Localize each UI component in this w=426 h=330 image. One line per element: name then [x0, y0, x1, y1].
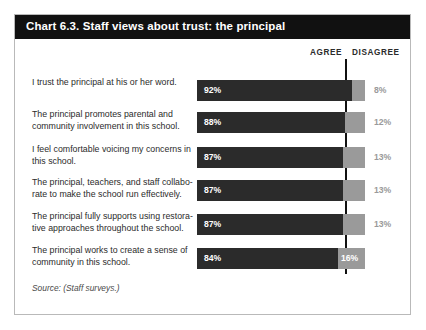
bar-value-agree: 92%: [204, 85, 221, 95]
source-note: Source: (Staff surveys.): [32, 283, 120, 293]
row-label-line: rate to make the school run effectively.: [32, 189, 194, 201]
bar-segment-disagree: [343, 214, 365, 235]
bar-value-disagree: 16%: [341, 253, 358, 263]
bar-track: 84%16%: [197, 248, 365, 269]
bar-value-agree: 87%: [204, 219, 221, 229]
column-header-disagree: DISAGREE: [352, 48, 400, 57]
row-label-line: The principal fully supports using resto…: [32, 211, 194, 223]
row-label: The principal works to create a sense of…: [32, 245, 194, 268]
bar-track: 87%13%: [197, 147, 365, 168]
chart-card: Chart 6.3. Staff views about trust: the …: [14, 14, 411, 315]
bar-track: 87%13%: [197, 214, 365, 235]
bar-track: 88%12%: [197, 112, 365, 133]
bar-value-disagree: 12%: [374, 117, 391, 127]
row-label-line: this school.: [32, 156, 194, 168]
chart-row: The principal promotes parental andcommu…: [15, 109, 410, 140]
row-label-line: I trust the principal at his or her word…: [32, 77, 194, 89]
bar-segment-disagree: [343, 180, 365, 201]
bar-segment-disagree: [352, 80, 365, 101]
chart-title-bar: Chart 6.3. Staff views about trust: the …: [15, 15, 410, 39]
row-label-line: tive approaches throughout the school.: [32, 223, 194, 235]
bar-value-disagree: 13%: [374, 185, 391, 195]
bar-value-agree: 88%: [204, 117, 221, 127]
bar-segment-agree: 92%: [197, 80, 352, 101]
row-label: I trust the principal at his or her word…: [32, 77, 194, 89]
row-label-line: I feel comfortable voicing my concerns i…: [32, 144, 194, 156]
row-label-line: community in this school.: [32, 257, 194, 269]
row-label: The principal promotes parental andcommu…: [32, 109, 194, 132]
page-title: Chart 6.3. Staff views about trust: the …: [26, 20, 285, 32]
chart-plot-area: I trust the principal at his or her word…: [15, 59, 410, 274]
bar-track: 92%8%: [197, 80, 365, 101]
bar-segment-agree: 87%: [197, 180, 343, 201]
row-label: The principal fully supports using resto…: [32, 211, 194, 234]
chart-row: I feel comfortable voicing my concerns i…: [15, 144, 410, 175]
bar-value-disagree: 13%: [374, 219, 391, 229]
row-label: I feel comfortable voicing my concerns i…: [32, 144, 194, 167]
bar-value-agree: 84%: [204, 253, 221, 263]
chart-row: The principal fully supports using resto…: [15, 211, 410, 242]
column-header-agree: AGREE: [310, 48, 342, 57]
bar-segment-disagree: [343, 147, 365, 168]
bar-segment-agree: 87%: [197, 147, 343, 168]
bar-value-agree: 87%: [204, 185, 221, 195]
row-label: The principal, teachers, and staff colla…: [32, 177, 194, 200]
bar-segment-agree: 88%: [197, 112, 345, 133]
bar-value-agree: 87%: [204, 152, 221, 162]
row-label-line: The principal promotes parental and: [32, 109, 194, 121]
page-root: Chart 6.3. Staff views about trust: the …: [0, 0, 426, 330]
bar-segment-agree: 84%: [197, 248, 338, 269]
bar-track: 87%13%: [197, 180, 365, 201]
row-label-line: The principal, teachers, and staff colla…: [32, 177, 194, 189]
chart-row: The principal works to create a sense of…: [15, 245, 410, 276]
bar-value-disagree: 8%: [374, 85, 386, 95]
row-label-line: The principal works to create a sense of: [32, 245, 194, 257]
chart-row: The principal, teachers, and staff colla…: [15, 177, 410, 208]
bar-segment-disagree: [345, 112, 365, 133]
bar-segment-agree: 87%: [197, 214, 343, 235]
bar-value-disagree: 13%: [374, 152, 391, 162]
row-label-line: community involvement in this school.: [32, 121, 194, 133]
chart-row: I trust the principal at his or her word…: [15, 77, 410, 108]
